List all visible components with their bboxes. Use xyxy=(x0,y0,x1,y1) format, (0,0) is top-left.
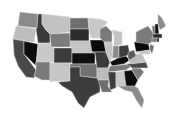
us-choropleth-map xyxy=(0,0,177,122)
state-ri xyxy=(157,38,159,42)
state-co xyxy=(54,48,72,63)
state-sd xyxy=(70,29,89,41)
state-nd xyxy=(70,18,89,29)
state-az xyxy=(34,62,50,80)
state-in xyxy=(112,46,119,58)
state-ms xyxy=(108,72,116,90)
state-wa xyxy=(18,12,38,28)
state-ct xyxy=(152,38,157,42)
state-fl xyxy=(118,86,144,108)
state-ma xyxy=(153,34,162,38)
state-me xyxy=(158,14,166,30)
state-wy xyxy=(50,33,71,47)
state-nm xyxy=(50,62,70,82)
state-ks xyxy=(72,53,95,64)
state-wi xyxy=(100,26,112,42)
state-nh xyxy=(155,24,159,34)
state-mi xyxy=(112,30,122,46)
state-ny xyxy=(136,26,154,44)
state-nj xyxy=(150,44,154,54)
